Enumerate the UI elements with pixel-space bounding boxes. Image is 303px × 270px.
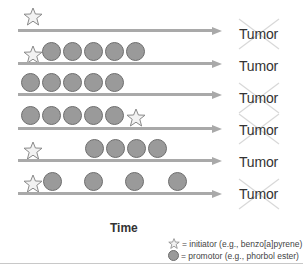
promotor-circle-icon [105, 42, 124, 61]
legend-promotor-text: = promotor (e.g., phorbol ester) [181, 251, 299, 261]
initiator-star-icon [23, 174, 43, 193]
promotor-circle-icon [21, 73, 40, 92]
promotor-circle-icon [84, 42, 103, 61]
arrow-head-icon [212, 157, 222, 165]
arrow-head-icon [212, 91, 222, 99]
time-arrow [18, 192, 214, 195]
legend-initiator: = initiator (e.g., benzo[a]pyrene) [168, 238, 302, 249]
promotor-circle-icon [85, 139, 104, 158]
tumor-label: Tumor [239, 186, 278, 202]
promotor-circle-icon [105, 106, 124, 125]
row-6: Tumor [0, 0, 303, 32]
promotor-circle-icon [105, 73, 124, 92]
divider [0, 263, 303, 264]
promotor-circle-icon [106, 139, 125, 158]
time-arrow [18, 159, 214, 162]
promotor-circle-icon [148, 139, 167, 158]
promotor-circle-icon [21, 106, 40, 125]
promotor-circle-icon [42, 42, 61, 61]
promotor-circle-icon [63, 73, 82, 92]
promotor-circle-icon [127, 139, 146, 158]
time-arrow [18, 93, 214, 96]
promotor-circle-icon [84, 172, 103, 191]
star-icon [168, 238, 180, 249]
legend-initiator-text: = initiator (e.g., benzo[a]pyrene) [182, 239, 302, 249]
promotor-circle-icon [63, 106, 82, 125]
arrow-head-icon [212, 190, 222, 198]
tumor-label: Tumor [239, 58, 278, 74]
promotor-circle-icon [84, 73, 103, 92]
initiator-star-icon [23, 141, 43, 160]
tumor-label: Tumor [239, 154, 278, 170]
promotor-circle-icon [42, 106, 61, 125]
legend-promotor: = promotor (e.g., phorbol ester) [168, 250, 299, 261]
time-arrow [18, 127, 214, 130]
promotor-circle-icon [63, 42, 82, 61]
circle-icon [168, 250, 179, 261]
promotor-circle-icon [126, 42, 145, 61]
promotor-circle-icon [42, 73, 61, 92]
arrow-head-icon [212, 60, 222, 68]
time-arrow [18, 62, 214, 65]
promotor-circle-icon [125, 172, 144, 191]
arrow-head-icon [212, 125, 222, 133]
promotor-circle-icon [168, 172, 187, 191]
promotor-circle-icon [43, 172, 62, 191]
tumor-label: Tumor [239, 122, 278, 138]
initiator-star-icon [126, 108, 146, 127]
promotor-circle-icon [84, 106, 103, 125]
time-axis-label: Time [110, 221, 138, 235]
tumor-label: Tumor [239, 90, 278, 106]
